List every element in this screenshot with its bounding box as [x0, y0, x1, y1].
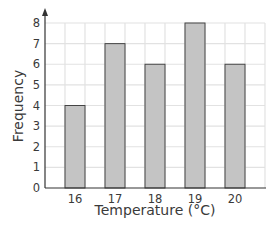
bar-16: [65, 106, 85, 189]
y-tick-label: 4: [33, 99, 40, 113]
y-tick-label: 7: [33, 37, 40, 51]
bar-20: [225, 64, 245, 188]
y-tick-label: 2: [33, 140, 40, 154]
y-tick-label: 3: [33, 119, 40, 133]
bar-17: [105, 44, 125, 188]
y-tick-label: 0: [33, 181, 40, 195]
y-axis-arrow-icon: [42, 8, 48, 16]
y-tick-label: 6: [33, 57, 40, 71]
y-tick-label: 8: [33, 16, 40, 30]
x-tick-label: 20: [228, 192, 243, 206]
y-tick-labels: 012345678: [33, 16, 40, 195]
bar-19: [185, 23, 205, 188]
y-tick-label: 1: [33, 160, 40, 174]
y-tick-label: 5: [33, 78, 40, 92]
x-tick-label: 16: [68, 192, 83, 206]
x-axis-label: Temperature (°C): [94, 202, 216, 218]
y-axis-label: Frequency: [10, 70, 26, 142]
bar-18: [145, 64, 165, 188]
bar-chart: 012345678 1617181920 Temperature (°C) Fr…: [0, 0, 279, 232]
